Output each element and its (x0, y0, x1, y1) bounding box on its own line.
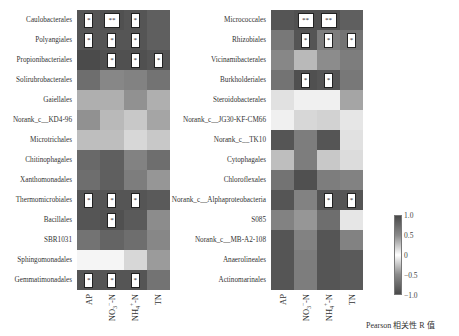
heatmap-cell (271, 250, 294, 270)
row-label: Thermomicrobiales (16, 190, 72, 210)
heatmap-cell (124, 250, 147, 270)
significance-marker: ** (298, 13, 314, 28)
heatmap-cell (340, 230, 363, 250)
heatmap-cell (340, 110, 363, 130)
heatmap-cell (340, 210, 363, 230)
heatmap-cell (100, 70, 123, 90)
row-label: Anaerolineales (223, 250, 266, 270)
heatmap-cell (100, 130, 123, 150)
heatmap-cell: * (317, 190, 340, 210)
heatmap-cell (340, 10, 363, 30)
heatmap-cell (124, 110, 147, 130)
significance-marker: * (84, 193, 93, 208)
row-label: Solirubrobacterales (16, 70, 72, 90)
significance-marker: * (107, 33, 116, 48)
colorbar-tick: −1.0 (404, 292, 418, 300)
heatmap-cell (271, 210, 294, 230)
significance-marker: * (324, 33, 333, 48)
significance-marker: * (107, 53, 116, 68)
row-label: Norank_c__KD4-96 (13, 110, 72, 130)
row-label: Bacillales (44, 210, 72, 230)
heatmap-cell (77, 110, 100, 130)
significance-marker: * (324, 73, 333, 88)
heatmap-cell: * (100, 30, 123, 50)
heatmap-cell (271, 270, 294, 290)
right-heatmap-grid: *********** (271, 10, 363, 290)
heatmap-cell (100, 150, 123, 170)
heatmap-cell (294, 130, 317, 150)
heatmap-cell (100, 250, 123, 270)
heatmap-cell (340, 70, 363, 90)
heatmap-cell (147, 130, 170, 150)
heatmap-cell (271, 10, 294, 30)
heatmap-cell (124, 230, 147, 250)
row-label: Gemmatimonadales (15, 270, 72, 290)
heatmap-cell: * (340, 190, 363, 210)
significance-marker: * (84, 273, 93, 288)
row-label: SBR1031 (44, 230, 72, 250)
left-heatmap-grid: ***************** (77, 10, 170, 290)
heatmap-cell (124, 210, 147, 230)
heatmap-cell (124, 70, 147, 90)
row-label: Norank_c__Alphaproteobacteria (172, 190, 266, 210)
heatmap-cell (294, 230, 317, 250)
heatmap-cell: * (77, 270, 100, 290)
row-label: Sphingomonadales (17, 250, 72, 270)
heatmap-cell: * (124, 30, 147, 50)
significance-marker: * (154, 53, 163, 68)
significance-marker: * (107, 213, 116, 228)
heatmap-cell: * (124, 190, 147, 210)
heatmap-cell: * (100, 270, 123, 290)
heatmap-cell (271, 70, 294, 90)
heatmap-cell (147, 250, 170, 270)
significance-marker: ** (321, 13, 337, 28)
heatmap-cell (271, 230, 294, 250)
significance-marker: ** (104, 13, 120, 28)
row-label: Actinomarinales (218, 270, 266, 290)
heatmap-cell: * (100, 50, 123, 70)
row-label: S085 (251, 210, 266, 230)
significance-marker: * (347, 33, 356, 48)
heatmap-cell: * (77, 30, 100, 50)
row-label: Chitinophagales (25, 150, 72, 170)
heatmap-cell (147, 170, 170, 190)
row-label: Micrococcales (224, 10, 266, 30)
heatmap-cell (147, 270, 170, 290)
heatmap-cell (147, 110, 170, 130)
heatmap-cell (100, 170, 123, 190)
heatmap-cell (77, 170, 100, 190)
heatmap-cell (340, 50, 363, 70)
row-label: Norank_c__MB-A2-108 (195, 230, 266, 250)
heatmap-cell (317, 250, 340, 270)
heatmap-cell (147, 150, 170, 170)
heatmap-cell (271, 30, 294, 50)
heatmap-cell (77, 70, 100, 90)
heatmap-cell: * (124, 270, 147, 290)
heatmap-cell (317, 210, 340, 230)
row-label: Cytophagales (227, 150, 266, 170)
heatmap-cell (124, 150, 147, 170)
heatmap-cell (271, 150, 294, 170)
significance-marker: * (324, 193, 333, 208)
row-label: Norank_c__JG30-KF-CM66 (183, 110, 266, 130)
significance-marker: * (347, 193, 356, 208)
heatmap-cell (294, 150, 317, 170)
heatmap-cell: * (317, 30, 340, 50)
row-label: Burkholderiales (220, 70, 266, 90)
row-label: Vicinamibacterales (211, 50, 266, 70)
heatmap-cell: * (77, 10, 100, 30)
heatmap-cell: ** (317, 10, 340, 30)
heatmap-cell (147, 70, 170, 90)
heatmap-cell (317, 270, 340, 290)
heatmap-cell: * (124, 10, 147, 30)
heatmap-cell (271, 190, 294, 210)
heatmap-cell: * (147, 50, 170, 70)
heatmap-cell (340, 250, 363, 270)
heatmap-cell (124, 90, 147, 110)
heatmap-cell (340, 270, 363, 290)
row-label: Chloroflexales (224, 170, 266, 190)
row-label: Gaiellales (43, 90, 72, 110)
heatmap-cell (124, 170, 147, 190)
heatmap-cell (294, 190, 317, 210)
heatmap-cell (147, 210, 170, 230)
